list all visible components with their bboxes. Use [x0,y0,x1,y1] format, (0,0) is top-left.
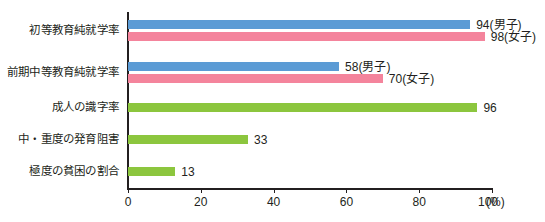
x-axis-unit-label: (%) [486,196,505,208]
category-label: 成人の識字率 [52,102,119,114]
bar-track: 96 [128,103,492,112]
category-label: 極度の貧困の割合 [29,166,119,178]
x-axis-tick-label: 0 [125,196,132,208]
bar-track: 94(男子) [128,20,492,29]
bar-value-label: 58(男子) [345,61,390,73]
bar [128,32,485,41]
x-axis-tick [128,188,129,193]
bar [128,135,248,144]
category-label: 前期中等教育純就学率 [7,67,119,79]
bar [128,103,477,112]
chart-row: 初等教育純就学率94(男子)98(女子) [128,20,492,41]
bar-track: 13 [128,167,492,176]
x-axis-tick [201,188,202,193]
bar-value-label: 96 [483,102,496,114]
x-axis-tick-label: 40 [267,196,280,208]
x-axis-tick [274,188,275,193]
bar-track: 98(女子) [128,32,492,41]
bar-track: 70(女子) [128,74,492,83]
bar-track: 33 [128,135,492,144]
bar [128,62,339,71]
chart-row: 極度の貧困の割合13 [128,167,492,176]
category-label: 初等教育純就学率 [29,25,119,37]
bar-value-label: 13 [181,166,194,178]
x-axis-tick [346,188,347,193]
category-label: 中・重度の発育阻害 [18,134,119,146]
bar-chart: 初等教育純就学率94(男子)98(女子)前期中等教育純就学率58(男子)70(女… [0,0,545,222]
chart-row: 成人の識字率96 [128,103,492,112]
bar [128,167,175,176]
plot-area: 初等教育純就学率94(男子)98(女子)前期中等教育純就学率58(男子)70(女… [128,12,492,189]
chart-row: 前期中等教育純就学率58(男子)70(女子) [128,62,492,83]
bar-track: 58(男子) [128,62,492,71]
x-axis-tick [419,188,420,193]
x-axis-tick-label: 60 [340,196,353,208]
x-axis-tick [492,188,493,193]
bar [128,74,383,83]
bar-value-label: 33 [254,134,267,146]
bar [128,20,470,29]
bar-value-label: 98(女子) [491,31,536,43]
x-axis-tick-label: 80 [413,196,426,208]
chart-row: 中・重度の発育阻害33 [128,135,492,144]
x-axis-tick-label: 20 [194,196,207,208]
bar-value-label: 70(女子) [389,73,434,85]
